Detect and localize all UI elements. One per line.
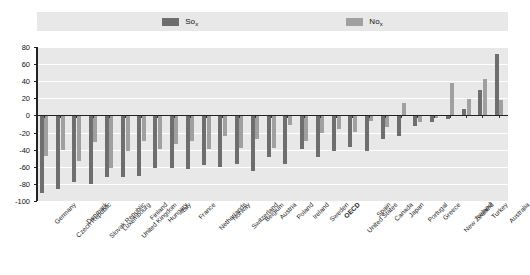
bar-no[interactable] xyxy=(44,115,48,155)
bar-so[interactable] xyxy=(332,115,336,151)
bar-no[interactable] xyxy=(190,115,194,141)
bar-so[interactable] xyxy=(300,115,304,148)
bar-no[interactable] xyxy=(61,115,65,149)
bar-so[interactable] xyxy=(495,54,499,116)
bar-no[interactable] xyxy=(385,115,389,127)
bar-no[interactable] xyxy=(174,115,178,143)
bar-no[interactable] xyxy=(369,115,373,120)
x-axis-tick-label: Denmark xyxy=(85,201,109,225)
bar-group[interactable] xyxy=(300,47,316,201)
bar-no[interactable] xyxy=(239,115,243,148)
bar-so[interactable] xyxy=(72,115,76,182)
bar-no[interactable] xyxy=(142,115,146,141)
y-axis-tick-label: -80 xyxy=(19,179,30,188)
bar-group[interactable] xyxy=(267,47,283,201)
x-axis-tick-label: Germany xyxy=(53,201,77,225)
bar-so[interactable] xyxy=(137,115,141,176)
bar-group[interactable] xyxy=(413,47,429,201)
bar-group[interactable] xyxy=(478,47,494,201)
y-axis-tick-label: 0 xyxy=(26,111,30,120)
bar-so[interactable] xyxy=(267,115,271,157)
legend-label-no: Nox xyxy=(369,18,383,26)
bar-so[interactable] xyxy=(89,115,93,183)
bar-group[interactable] xyxy=(462,47,478,201)
bar-so[interactable] xyxy=(153,115,157,167)
x-axis-tick-label: Iceland xyxy=(473,201,493,221)
bar-so[interactable] xyxy=(218,115,222,166)
bar-so[interactable] xyxy=(283,115,287,164)
legend-label-so: Sox xyxy=(185,18,198,26)
bar-so[interactable] xyxy=(186,115,190,169)
chart-legend: Sox Nox xyxy=(37,12,508,31)
legend-item-no: Nox xyxy=(346,18,383,26)
bar-group[interactable] xyxy=(430,47,446,201)
bar-no[interactable] xyxy=(288,115,292,124)
bar-no[interactable] xyxy=(272,115,276,148)
bar-no[interactable] xyxy=(255,115,259,138)
bar-group[interactable] xyxy=(365,47,381,201)
bar-group[interactable] xyxy=(218,47,234,201)
bar-no[interactable] xyxy=(320,115,324,133)
x-axis-labels: GermanyCzech RepublicDenmarkSlovak Repub… xyxy=(37,201,508,275)
bar-no[interactable] xyxy=(467,99,471,115)
bar-group[interactable] xyxy=(202,47,218,201)
bar-group[interactable] xyxy=(186,47,202,201)
bar-no[interactable] xyxy=(353,115,357,131)
bar-no[interactable] xyxy=(402,103,406,115)
bar-group[interactable] xyxy=(153,47,169,201)
bar-group[interactable] xyxy=(56,47,72,201)
bar-so[interactable] xyxy=(235,115,239,164)
y-axis-tick-label: 60 xyxy=(22,60,30,69)
bar-so[interactable] xyxy=(365,115,369,151)
bar-group[interactable] xyxy=(446,47,462,201)
bar-so[interactable] xyxy=(478,90,482,116)
bar-group[interactable] xyxy=(40,47,56,201)
bar-group[interactable] xyxy=(121,47,137,201)
bar-group[interactable] xyxy=(170,47,186,201)
bar-so[interactable] xyxy=(40,115,44,193)
bar-no[interactable] xyxy=(207,115,211,148)
bar-group[interactable] xyxy=(105,47,121,201)
bar-so[interactable] xyxy=(251,115,255,171)
bar-so[interactable] xyxy=(202,115,206,165)
bar-group[interactable] xyxy=(235,47,251,201)
x-axis-tick-label: Poland xyxy=(295,201,314,220)
bar-group[interactable] xyxy=(397,47,413,201)
bar-so[interactable] xyxy=(397,115,401,136)
bar-group[interactable] xyxy=(137,47,153,201)
bar-so[interactable] xyxy=(348,115,352,147)
bar-no[interactable] xyxy=(499,100,503,115)
bar-so[interactable] xyxy=(316,115,320,157)
bar-so[interactable] xyxy=(105,115,109,177)
x-axis-tick-label: Australia xyxy=(507,201,530,224)
bar-no[interactable] xyxy=(418,115,422,122)
bar-no[interactable] xyxy=(223,115,227,136)
bar-group[interactable] xyxy=(332,47,348,201)
bar-no[interactable] xyxy=(126,115,130,150)
bar-group[interactable] xyxy=(316,47,332,201)
bar-group[interactable] xyxy=(495,47,511,201)
y-axis-tick-label: -60 xyxy=(19,162,30,171)
x-axis-tick-label: France xyxy=(197,201,216,220)
bar-group[interactable] xyxy=(283,47,299,201)
bar-no[interactable] xyxy=(77,115,81,160)
bar-no[interactable] xyxy=(304,115,308,141)
y-axis-tick-label: -20 xyxy=(19,128,30,137)
bar-no[interactable] xyxy=(337,115,341,129)
bar-group[interactable] xyxy=(251,47,267,201)
bar-group[interactable] xyxy=(381,47,397,201)
bar-group[interactable] xyxy=(89,47,105,201)
bar-so[interactable] xyxy=(121,115,125,177)
bar-no[interactable] xyxy=(450,83,454,116)
bar-so[interactable] xyxy=(170,115,174,167)
bar-no[interactable] xyxy=(158,115,162,148)
y-axis-tick-label: 20 xyxy=(22,94,30,103)
bar-no[interactable] xyxy=(483,79,487,116)
bar-no[interactable] xyxy=(93,115,97,142)
bar-group[interactable] xyxy=(72,47,88,201)
bar-no[interactable] xyxy=(109,115,113,168)
bar-group[interactable] xyxy=(348,47,364,201)
bar-so[interactable] xyxy=(56,115,60,189)
bar-so[interactable] xyxy=(381,115,385,138)
